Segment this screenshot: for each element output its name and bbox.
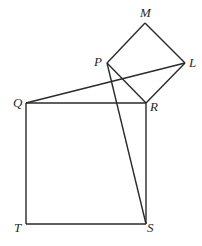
segment-PM (107, 23, 145, 63)
segment-ML (145, 23, 185, 63)
geometry-diagram: M P L Q R T S (0, 0, 202, 246)
label-Q: Q (13, 96, 22, 109)
segment-PS (107, 63, 146, 224)
diagram-canvas (0, 0, 202, 246)
label-T: T (14, 221, 21, 234)
segment-QL (26, 63, 185, 103)
segment-RP (107, 63, 146, 103)
label-L: L (189, 56, 196, 69)
segment-LR (146, 63, 185, 103)
label-R: R (150, 100, 158, 113)
label-M: M (140, 6, 151, 19)
label-P: P (94, 55, 102, 68)
label-S: S (147, 221, 154, 234)
